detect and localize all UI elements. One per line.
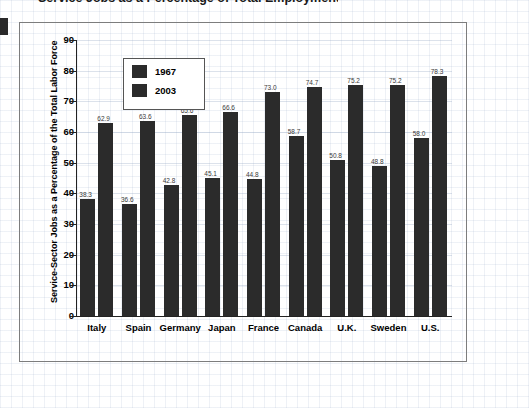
- bar-value-label: 63.6: [139, 113, 152, 120]
- legend-swatch-2003: [132, 84, 147, 97]
- legend-swatch-1967: [132, 65, 147, 78]
- bar-value-label: 48.8: [371, 158, 384, 165]
- bar-italy-1967: [80, 199, 95, 316]
- bar-sweden-2003: [390, 85, 405, 316]
- bar-value-label: 50.8: [329, 152, 342, 159]
- page-title: Service Jobs as a Percentage of Total Em…: [38, 0, 338, 5]
- bar-value-label: 42.8: [163, 177, 176, 184]
- x-category-germany: Germany: [159, 322, 201, 333]
- bar-france-2003: [265, 92, 280, 316]
- bar-value-label: 66.6: [222, 104, 235, 111]
- bar-value-label: 45.1: [204, 170, 217, 177]
- bar-canada-2003: [307, 87, 322, 316]
- bar-value-label: 44.8: [246, 171, 259, 178]
- bar-value-label: 38.3: [79, 191, 92, 198]
- bar-uk-1967: [330, 160, 345, 316]
- bar-value-label: 58.0: [413, 130, 426, 137]
- bar-sweden-1967: [372, 166, 387, 316]
- bar-value-label: 75.2: [347, 77, 360, 84]
- bar-germany-1967: [164, 185, 179, 316]
- bar-canada-1967: [289, 136, 304, 316]
- legend-item-1967: 1967: [132, 65, 204, 78]
- chart-legend: 1967 2003: [123, 58, 205, 110]
- bar-value-label: 78.3: [431, 68, 444, 75]
- bar-uk-2003: [348, 85, 363, 316]
- bar-us-1967: [414, 138, 429, 316]
- x-category-us: U.S.: [409, 322, 451, 333]
- y-axis-label: Service-Sector Jobs as a Percentage of t…: [49, 53, 59, 303]
- bar-italy-2003: [98, 123, 113, 316]
- x-axis-line: [76, 316, 452, 317]
- legend-label-2003: 2003: [155, 85, 176, 96]
- bar-japan-1967: [205, 178, 220, 316]
- bar-value-label: 74.7: [306, 79, 319, 86]
- bar-germany-2003: [182, 115, 197, 316]
- bar-japan-2003: [223, 112, 238, 316]
- legend-item-2003: 2003: [132, 84, 204, 97]
- x-category-japan: Japan: [201, 322, 243, 333]
- legend-label-1967: 1967: [155, 66, 176, 77]
- bar-spain-1967: [122, 204, 137, 316]
- x-category-canada: Canada: [284, 322, 326, 333]
- bar-us-2003: [432, 76, 447, 316]
- bar-spain-2003: [140, 121, 155, 316]
- chart-container: Service-Sector Jobs as a Percentage of t…: [19, 22, 467, 362]
- bar-value-label: 62.9: [97, 115, 110, 122]
- bar-value-label: 73.0: [264, 84, 277, 91]
- bar-value-label: 36.6: [121, 196, 134, 203]
- source-note-wrapper: SOURCES: Organization for Economic Coope…: [471, 18, 501, 362]
- x-category-france: France: [243, 322, 285, 333]
- x-category-uk: U.K.: [326, 322, 368, 333]
- bar-france-1967: [247, 179, 262, 316]
- bar-value-label: 58.7: [288, 128, 301, 135]
- bar-value-label: 75.2: [389, 77, 402, 84]
- x-category-spain: Spain: [118, 322, 160, 333]
- x-category-sweden: Sweden: [368, 322, 410, 333]
- left-margin-marker: [0, 18, 8, 35]
- x-category-italy: Italy: [76, 322, 118, 333]
